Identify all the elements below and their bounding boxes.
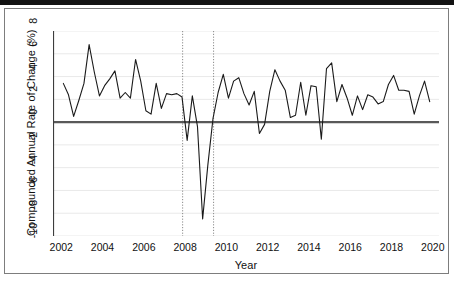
axis-lines: [53, 31, 439, 236]
scan-top-bar: [0, 0, 454, 5]
y-tick-label: 4: [27, 64, 39, 86]
x-tick-label: 2002: [50, 241, 73, 253]
x-tick-label: 2006: [132, 241, 155, 253]
axis-tick-marks: [53, 31, 433, 236]
figure-frame: Compounded Annual Rate of Change (%) Yea…: [4, 8, 449, 274]
x-tick-label: 2012: [256, 241, 279, 253]
figure-container: Compounded Annual Rate of Change (%) Yea…: [0, 0, 454, 282]
y-tick-label: -2: [27, 132, 39, 154]
x-tick-label: 2008: [173, 241, 196, 253]
y-tick-label: -8: [27, 200, 39, 222]
y-tick-label: 0: [27, 109, 39, 131]
y-tick-label: 6: [27, 41, 39, 63]
x-tick-label: 2016: [339, 241, 362, 253]
y-tick-label: 2: [27, 86, 39, 108]
x-tick-label: 2004: [91, 241, 114, 253]
series-line-0: [63, 45, 429, 219]
y-tick-label: -10: [27, 223, 39, 245]
x-tick-label: 2010: [215, 241, 238, 253]
plot-area: [53, 31, 439, 236]
y-tick-label: -6: [27, 177, 39, 199]
x-tick-label: 2014: [297, 241, 320, 253]
x-tick-label: 2018: [380, 241, 403, 253]
x-axis-title: Year: [53, 259, 439, 271]
x-tick-label: 2020: [421, 241, 444, 253]
data-series-layer: [63, 45, 429, 219]
line-chart-svg: [53, 31, 439, 236]
gridlines: [53, 31, 439, 236]
y-tick-label: -4: [27, 155, 39, 177]
y-tick-label: 8: [27, 18, 39, 40]
